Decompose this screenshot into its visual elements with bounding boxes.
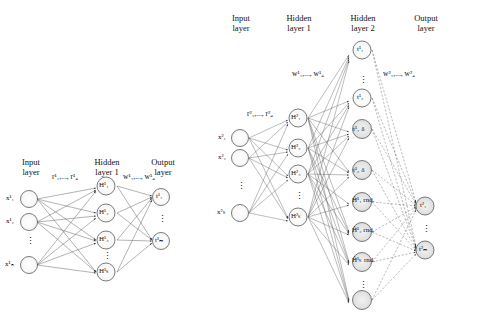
left-output-ellipsis: ⋮: [158, 214, 167, 224]
left-weight-label-input-hidden: r¹₁,..., r¹₄: [52, 173, 78, 182]
right-header-hidden-layer-1: Hidden layer 1: [280, 14, 318, 34]
right-output-node-label-m: t²ₘ: [419, 245, 427, 253]
right-input-node-label-1: x²₁: [218, 133, 226, 141]
right-output-node-label-1: t²₁: [420, 201, 426, 209]
right-input-node-label-2: x²₂: [218, 153, 226, 161]
left-hidden-node-label-2: H¹₂: [99, 208, 109, 216]
right-header-hidden-layer-2: Hidden layer 2: [344, 14, 382, 34]
left-hidden-node-label-3: H¹₃: [99, 235, 109, 243]
right-output-ellipsis: ⋮: [422, 224, 431, 234]
right-header-output-layer: Output layer: [408, 14, 444, 34]
right-hidden1-ellipsis: ⋮: [295, 191, 304, 201]
right-hidden2-node-label-3: t¹₁ δ: [353, 125, 365, 133]
right-input-node-label-k: x²ₖ: [217, 208, 226, 216]
left-hidden-ellipsis: ⋮: [103, 251, 112, 261]
figure-canvas: Input layer Hidden layer 1 Output layer …: [0, 0, 477, 330]
right-input-ellipsis: ⋮: [237, 181, 246, 191]
left-edges-input-hidden: [37, 188, 96, 273]
right-hidden2-ellipsis-bottom: ⋮: [359, 280, 368, 290]
right-hidden2-node-label-1: t¹₁: [357, 45, 363, 53]
left-input-node-label-2: x¹₂: [6, 217, 14, 225]
network-diagram-svg: [0, 0, 477, 330]
right-weight-label-hidden2-output: w²₁,..., w²₄: [383, 70, 415, 79]
right-edges-hidden1-hidden2: [308, 55, 349, 303]
right-hidden2-node-label-5: Ĥ¹₁ rnd.: [352, 196, 374, 204]
right-header-input-layer: Input layer: [224, 14, 258, 34]
right-hidden2-node-label-4: t¹₂ δ: [353, 166, 365, 174]
left-output-node-label-1: t¹₁: [156, 192, 162, 200]
left-header-input-layer: Input layer: [14, 158, 48, 178]
left-edges-hidden-output: [117, 186, 152, 272]
right-hidden1-node-label-1: H²₁: [291, 113, 301, 121]
right-hidden2-ellipsis-top: ⋮: [359, 75, 368, 85]
left-input-node-label-n: x¹ₙ: [5, 260, 14, 268]
left-input-node-label-1: x¹₁: [6, 194, 14, 202]
right-hidden2-node-label-7: Ĥ¹ₖ rnd.: [352, 256, 374, 264]
left-hidden-node-label-1: H¹₁: [99, 181, 109, 189]
right-hidden1-node-label-3: H²₃: [291, 169, 301, 177]
left-hidden-nodes: [97, 177, 115, 281]
left-input-ellipsis: ⋮: [26, 236, 35, 246]
right-edges-hidden2-output: [372, 50, 416, 300]
right-hidden1-nodes: [289, 109, 307, 226]
left-header-hidden-layer-1: Hidden layer 1: [88, 158, 126, 178]
left-output-node-label-m: t¹ₘ: [155, 236, 163, 244]
right-input-nodes: [232, 130, 249, 222]
right-hidden2-node-label-6: Ĥ¹₂ rnd.: [352, 226, 374, 234]
left-input-nodes: [21, 191, 38, 274]
right-edges-input-hidden1: [249, 120, 288, 221]
right-hidden1-node-label-2: H²₂: [291, 143, 301, 151]
right-weight-label-hidden1-hidden2: w¹₁,..., w¹₄: [292, 70, 324, 79]
right-hidden1-node-label-k: H²ₖ: [291, 212, 301, 220]
left-weight-label-hidden-output: w¹₁,..., w¹₄: [123, 173, 155, 182]
right-weight-label-input-hidden1: r²₁,..., r²₄: [247, 110, 273, 119]
right-hidden2-node-label-2: t¹₂: [357, 93, 363, 101]
left-hidden-node-label-k: H¹ₖ: [99, 267, 109, 275]
